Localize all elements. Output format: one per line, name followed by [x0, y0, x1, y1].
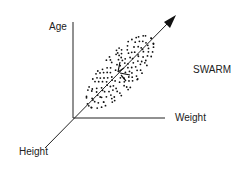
swarm-diagram: [0, 0, 246, 170]
weight-axis-label: Weight: [175, 112, 206, 123]
age-axis-label: Age: [49, 21, 67, 32]
height-axis-arrow: [45, 15, 176, 148]
height-axis-label: Height: [19, 146, 48, 157]
swarm-label: SWARM: [193, 64, 231, 75]
arrowhead-icon: [164, 15, 176, 28]
